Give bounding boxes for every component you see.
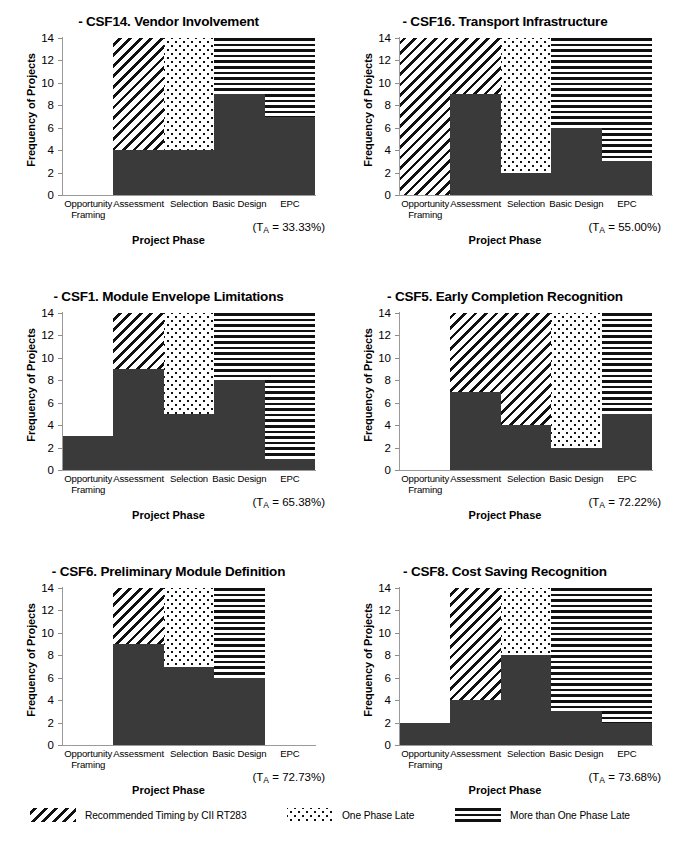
chart-panel: - CSF5. Early Completion RecognitionFreq…: [337, 275, 673, 550]
x-axis-line: [399, 745, 653, 746]
x-axis-label: Project Phase: [0, 784, 337, 796]
y-tick-label: 12: [24, 330, 54, 340]
bar: [164, 667, 214, 746]
y-tick-label: 14: [361, 308, 391, 318]
bar: [501, 173, 551, 195]
x-axis-label: Project Phase: [0, 234, 337, 246]
plot-canvas: [400, 38, 652, 195]
ta-annotation: (TA = 55.00%): [589, 221, 662, 233]
ta-value: 65.38%: [282, 496, 321, 508]
ta-annotation: (TA = 72.73%): [253, 771, 326, 783]
y-axis-ticks: 14121086420: [363, 588, 397, 745]
y-tick-label: 14: [24, 33, 54, 43]
ta-suffix: ): [321, 221, 325, 233]
pattern-zone-blank: [400, 313, 450, 470]
chart-panel: - CSF1. Module Envelope LimitationsFrequ…: [0, 275, 337, 550]
x-axis-line: [399, 470, 653, 471]
bar: [551, 128, 601, 195]
x-axis-label: Project Phase: [0, 509, 337, 521]
legend-swatch-hatch-icon: [30, 808, 76, 822]
y-tick-label: 0: [361, 190, 391, 200]
y-axis-ticks: 14121086420: [26, 38, 60, 195]
ta-prefix: (T: [589, 771, 600, 783]
y-tick-label: 14: [24, 583, 54, 593]
x-tick-label: EPC: [594, 748, 660, 759]
y-tick-label: 12: [24, 605, 54, 615]
bar: [265, 459, 315, 470]
y-tick-label: 0: [361, 740, 391, 750]
ta-subscript: A: [599, 225, 605, 235]
chart-grid: - CSF14. Vendor InvolvementFrequency of …: [0, 0, 673, 795]
y-tick-label: 14: [361, 583, 391, 593]
y-tick-label: 2: [361, 718, 391, 728]
legend-item: One Phase Late: [287, 808, 414, 822]
y-tick-label: 4: [361, 145, 391, 155]
ta-annotation: (TA = 72.22%): [589, 496, 662, 508]
x-axis-label: Project Phase: [337, 509, 673, 521]
y-tick-label: 10: [361, 353, 391, 363]
x-axis-line: [62, 470, 316, 471]
legend-swatch-lines-icon: [455, 808, 501, 822]
chart-title: - CSF5. Early Completion Recognition: [337, 289, 673, 304]
figure-sheet: - CSF14. Vendor InvolvementFrequency of …: [0, 0, 673, 857]
bar: [450, 700, 500, 745]
legend-item: Recommended Timing by CII RT283: [30, 808, 246, 822]
pattern-zone-blank: [63, 588, 113, 745]
ta-value: 73.68%: [618, 771, 657, 783]
y-axis-ticks: 14121086420: [26, 313, 60, 470]
x-axis-line: [62, 195, 316, 196]
ta-prefix: (T: [253, 771, 264, 783]
x-axis-label: Project Phase: [337, 234, 673, 246]
pattern-zone-blank: [265, 588, 315, 745]
bar: [501, 655, 551, 745]
y-tick-label: 2: [24, 443, 54, 453]
pattern-zone-dots: [551, 313, 601, 470]
x-tick-label: EPC: [257, 748, 323, 759]
ta-prefix: (T: [253, 496, 264, 508]
plot-area: Frequency of Projects14121086420Opportun…: [0, 588, 337, 778]
x-tick-line1: EPC: [594, 198, 660, 209]
ta-prefix: (T: [253, 221, 264, 233]
y-tick-label: 10: [24, 353, 54, 363]
y-tick-label: 6: [361, 673, 391, 683]
y-tick-label: 12: [361, 605, 391, 615]
bar: [214, 380, 264, 470]
y-tick-label: 10: [361, 628, 391, 638]
chart-title: - CSF16. Transport Infrastructure: [337, 14, 673, 29]
bar: [602, 414, 652, 470]
ta-subscript: A: [599, 500, 605, 510]
y-tick-label: 2: [361, 168, 391, 178]
y-tick-label: 8: [361, 375, 391, 385]
ta-suffix: ): [657, 496, 661, 508]
legend-swatch-dots-icon: [287, 808, 333, 822]
ta-prefix: (T: [589, 496, 600, 508]
ta-value: 72.22%: [618, 496, 657, 508]
plot-area: Frequency of Projects14121086420Opportun…: [0, 38, 337, 228]
y-tick-label: 12: [361, 330, 391, 340]
bar: [551, 448, 601, 470]
chart-panel: - CSF8. Cost Saving RecognitionFrequency…: [337, 550, 673, 795]
bar: [113, 150, 163, 195]
ta-equals: =: [269, 496, 282, 508]
ta-suffix: ): [657, 771, 661, 783]
x-tick-line2: Framing: [392, 484, 458, 495]
y-tick-label: 6: [24, 673, 54, 683]
ta-equals: =: [605, 496, 618, 508]
x-tick-label: EPC: [257, 198, 323, 209]
chart-title: - CSF6. Preliminary Module Definition: [0, 564, 337, 579]
y-tick-label: 14: [361, 33, 391, 43]
chart-title: - CSF1. Module Envelope Limitations: [0, 289, 337, 304]
ta-annotation: (TA = 33.33%): [253, 221, 326, 233]
bar: [164, 150, 214, 195]
x-tick-label: EPC: [257, 473, 323, 484]
y-tick-label: 6: [24, 123, 54, 133]
plot-area: Frequency of Projects14121086420Opportun…: [0, 313, 337, 503]
y-tick-label: 4: [361, 695, 391, 705]
ta-equals: =: [605, 221, 618, 233]
x-axis-label: Project Phase: [337, 784, 673, 796]
bar: [450, 392, 500, 471]
y-tick-label: 6: [361, 123, 391, 133]
ta-equals: =: [269, 221, 282, 233]
y-tick-label: 4: [24, 695, 54, 705]
x-tick-line1: EPC: [257, 748, 323, 759]
